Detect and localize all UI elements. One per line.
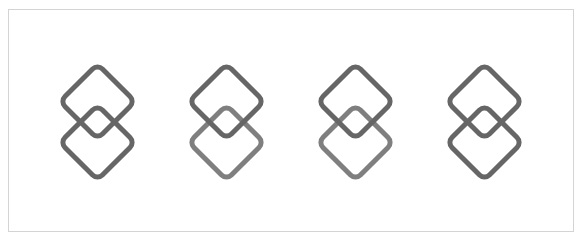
icon-row (0, 0, 584, 243)
interlocking-diamonds-icon-2 (189, 64, 264, 180)
interlocking-diamonds-icon-1 (60, 64, 135, 180)
interlocking-diamonds-icon-4 (447, 64, 522, 180)
interlocking-diamonds-icon-3 (318, 64, 393, 180)
